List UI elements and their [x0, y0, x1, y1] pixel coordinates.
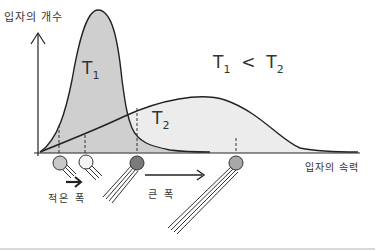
bottom-divider	[0, 248, 375, 250]
rel-op: <	[241, 52, 255, 72]
particle-slow-1	[53, 156, 76, 178]
particle-fast-2	[168, 156, 243, 234]
rel-right-main: T	[266, 52, 276, 72]
t2-main: T	[152, 108, 162, 128]
temperature-relation: T1 < T2	[213, 52, 284, 72]
large-width-label: 큰 폭	[148, 186, 175, 201]
small-width-label: 적은 폭	[48, 190, 86, 205]
small-width-arrow	[66, 177, 81, 187]
t1-sub: 1	[92, 69, 99, 82]
x-axis-label: 입자의 속력	[305, 159, 359, 174]
rel-left-sub: 1	[223, 63, 230, 76]
particle-fast-1	[103, 156, 144, 203]
t2-label: T2	[152, 108, 169, 128]
t1-label: T1	[82, 58, 99, 78]
rel-left-main: T	[213, 52, 223, 72]
rel-right-sub: 2	[277, 63, 284, 76]
distribution-diagram	[0, 0, 384, 251]
y-axis-label: 입자의 개수	[4, 8, 64, 24]
t1-main: T	[82, 58, 92, 78]
t2-sub: 2	[162, 119, 169, 132]
particle-slow-2	[79, 155, 102, 180]
large-width-arrow	[145, 170, 204, 180]
